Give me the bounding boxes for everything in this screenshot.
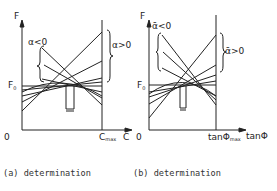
panel-a-caption-line-1: (a) determination (3, 168, 91, 179)
panel-b-x-label: tanΦ (246, 131, 268, 141)
panel-a-f0-label: F0 (8, 80, 16, 91)
panel-b-xmax-main: tanΦ (208, 132, 230, 142)
panel-b-alpha-neg-label: ᾱ<0 (152, 21, 171, 31)
panel-a-alpha-neg-label: α<0 (28, 37, 47, 47)
panel-a-y-arrow (20, 20, 24, 27)
panel-a-brace-pos (107, 30, 113, 82)
panel-b-caption: (b) determination based on F-tanΦ relati… (133, 146, 221, 191)
panel-a-optimum-range (66, 86, 74, 109)
panel-b-y-label: F (140, 11, 145, 21)
panel-b-y-arrow (147, 20, 151, 27)
panel-b-origin-label: 0 (136, 132, 142, 142)
panel-b-line-pos-1 (149, 35, 216, 118)
panel-a-x-label: C (123, 132, 129, 142)
panel-b-optimum-range (180, 86, 186, 108)
panel-a-f0-sub: 0 (13, 85, 16, 91)
panel-b-caption-line-1: (b) determination (133, 168, 221, 179)
panel-b-alpha-pos-label: ᾱ>0 (225, 46, 244, 56)
panel-a-caption: (a) determination based on F-c relations… (3, 146, 91, 191)
panel-b-xmax-label: tanΦmax (208, 132, 241, 142)
panel-a-brace-neg (37, 46, 44, 82)
panel-a-alpha-pos-label: α>0 (112, 40, 131, 50)
panel-b-f0-label: F0 (137, 80, 145, 91)
panel-a-xmax-sub: max (105, 136, 116, 142)
panel-a-xmax-label: Cmax (99, 132, 116, 142)
panel-a-line-neg-1 (42, 48, 102, 105)
panel-b-f0-sub: 0 (142, 85, 145, 91)
panel-b-line-neg-2 (163, 52, 216, 100)
panel-b-xmax-sub: max (230, 136, 241, 142)
panel-b-brace-neg (156, 33, 161, 71)
panel-b-x-arrow (239, 128, 246, 132)
panel-a-origin-label: 0 (4, 132, 10, 142)
panel-b-plot (147, 15, 246, 132)
panel-a-y-label: F (14, 11, 19, 21)
